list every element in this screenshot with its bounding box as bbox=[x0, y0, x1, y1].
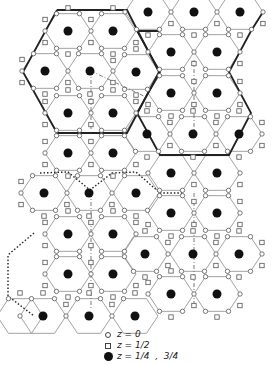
z-zero-circle bbox=[192, 211, 196, 215]
z-zero-circle bbox=[248, 149, 252, 153]
z-zero-circle bbox=[121, 296, 125, 300]
z-quarter-dot bbox=[167, 48, 176, 57]
z-half-square bbox=[261, 21, 265, 25]
z-zero-circle bbox=[122, 168, 126, 172]
z-half-square bbox=[238, 199, 242, 203]
z-half-square bbox=[214, 120, 218, 124]
z-zero-circle bbox=[19, 191, 23, 195]
z-zero-circle bbox=[202, 114, 206, 118]
z-zero-circle bbox=[157, 27, 161, 31]
z-zero-circle bbox=[226, 73, 230, 77]
z-zero-circle bbox=[180, 32, 184, 36]
z-half-square bbox=[111, 88, 115, 92]
z-half-square bbox=[145, 109, 149, 113]
z-half-square bbox=[143, 275, 147, 279]
z-half-square bbox=[260, 240, 264, 244]
z-half-square bbox=[133, 291, 137, 295]
z-half-square bbox=[89, 162, 93, 166]
z-zero-circle bbox=[30, 173, 34, 177]
z-half-square bbox=[111, 174, 115, 178]
z-zero-circle bbox=[249, 27, 253, 31]
z-zero-circle bbox=[157, 193, 161, 197]
z-half-square bbox=[214, 263, 218, 267]
z-half-square bbox=[238, 61, 242, 65]
z-zero-circle bbox=[75, 208, 79, 212]
z-zero-circle bbox=[54, 289, 58, 293]
z-quarter-dot bbox=[85, 312, 94, 321]
z-zero-circle bbox=[180, 188, 184, 192]
z-zero-circle bbox=[89, 111, 93, 115]
z-half-square bbox=[43, 283, 47, 287]
z-half-square bbox=[89, 220, 93, 224]
z-zero-circle bbox=[54, 249, 58, 253]
z-quarter-dot bbox=[109, 149, 118, 158]
z-zero-circle bbox=[157, 188, 161, 192]
z-zero-circle bbox=[226, 188, 230, 192]
z-zero-circle bbox=[226, 32, 230, 36]
dash-dot-line bbox=[91, 71, 148, 98]
z-zero-circle bbox=[52, 296, 56, 300]
z-half-square bbox=[168, 120, 172, 124]
z-zero-circle bbox=[29, 296, 33, 300]
z-half-square bbox=[66, 6, 70, 10]
z-half-square bbox=[134, 47, 138, 51]
z-zero-circle bbox=[261, 10, 265, 14]
z-zero-circle bbox=[238, 50, 242, 54]
z-zero-circle bbox=[168, 132, 172, 136]
z-zero-circle bbox=[157, 73, 161, 77]
z-half-square bbox=[191, 229, 195, 233]
z-zero-circle bbox=[179, 269, 183, 273]
z-zero-circle bbox=[157, 309, 161, 313]
kagome-structure-diagram bbox=[0, 0, 276, 365]
z-half-square bbox=[66, 80, 70, 84]
z-half-square bbox=[134, 283, 138, 287]
z-zero-circle bbox=[202, 149, 206, 153]
z-half-square bbox=[214, 240, 218, 244]
z-half-square bbox=[111, 6, 115, 10]
z-quarter-dot bbox=[189, 250, 198, 259]
z-half-square bbox=[89, 139, 93, 143]
z-half-square bbox=[66, 52, 70, 56]
z-quarter-dot bbox=[40, 189, 49, 198]
z-half-square bbox=[43, 243, 47, 247]
z-zero-circle bbox=[66, 69, 70, 73]
z-zero-circle bbox=[31, 51, 35, 55]
z-zero-circle bbox=[180, 108, 184, 112]
z-zero-circle bbox=[43, 29, 47, 33]
z-half-square bbox=[134, 162, 138, 166]
z-zero-circle bbox=[77, 249, 81, 253]
z-zero-circle bbox=[238, 292, 242, 296]
z-half-square bbox=[192, 303, 196, 307]
z-quarter-dot bbox=[64, 109, 73, 118]
z-half-square bbox=[192, 199, 196, 203]
z-zero-circle bbox=[54, 51, 58, 55]
z-zero-circle bbox=[89, 232, 93, 236]
filled-dot-icon bbox=[102, 351, 114, 362]
z-zero-circle bbox=[169, 10, 173, 14]
z-half-square bbox=[42, 214, 46, 218]
z-zero-circle bbox=[179, 149, 183, 153]
z-zero-circle bbox=[98, 173, 102, 177]
z-zero-circle bbox=[157, 274, 161, 278]
z-zero-circle bbox=[54, 128, 58, 132]
z-zero-circle bbox=[203, 27, 207, 31]
z-zero-circle bbox=[89, 29, 93, 33]
z-quarter-dot bbox=[190, 8, 199, 17]
z-half-square bbox=[215, 114, 219, 118]
z-zero-circle bbox=[260, 252, 264, 256]
z-zero-circle bbox=[157, 228, 161, 232]
z-half-square bbox=[89, 260, 93, 264]
z-half-square bbox=[89, 283, 93, 287]
z-zero-circle bbox=[226, 274, 230, 278]
z-zero-circle bbox=[6, 296, 10, 300]
z-half-square bbox=[169, 315, 173, 319]
z-zero-circle bbox=[77, 214, 81, 218]
z-quarter-dot bbox=[64, 27, 73, 36]
z-zero-circle bbox=[192, 171, 196, 175]
z-zero-circle bbox=[54, 133, 58, 137]
z-quarter-dot bbox=[167, 209, 176, 218]
z-zero-circle bbox=[43, 151, 47, 155]
z-half-square bbox=[19, 202, 23, 206]
open-circle-icon bbox=[102, 329, 114, 340]
z-zero-circle bbox=[122, 133, 126, 137]
